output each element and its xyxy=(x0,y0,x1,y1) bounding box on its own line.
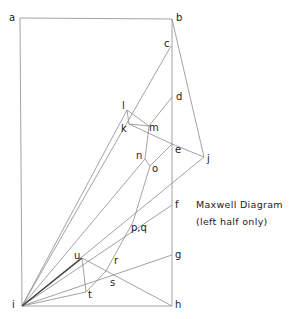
line-a-i xyxy=(20,18,22,306)
point-label-u: u xyxy=(74,250,80,261)
caption-title: Maxwell Diagram xyxy=(196,199,283,210)
point-label-pq: p,q xyxy=(131,222,147,233)
point-label-a: a xyxy=(9,12,15,23)
diagram-heavy-strut xyxy=(22,258,82,306)
point-label-e: e xyxy=(175,144,181,155)
point-label-s: s xyxy=(110,277,115,288)
line-c-i xyxy=(22,46,171,306)
line-f-i xyxy=(22,205,172,306)
point-label-r: r xyxy=(114,255,119,266)
point-label-c: c xyxy=(164,38,170,49)
line-n-o xyxy=(145,159,150,166)
point-label-d: d xyxy=(176,91,182,102)
maxwell-diagram: abcdefghijklmnop,qrstu xyxy=(0,0,295,319)
diagram-lines xyxy=(20,18,204,306)
line-n-i xyxy=(22,159,145,306)
line-i-u-heavy xyxy=(22,258,82,306)
point-label-m: m xyxy=(149,122,159,133)
point-label-n: n xyxy=(136,150,142,161)
line-l-m xyxy=(127,110,149,126)
line-b-j xyxy=(172,19,204,157)
point-label-f: f xyxy=(175,199,179,210)
point-label-g: g xyxy=(175,249,181,260)
point-label-o: o xyxy=(152,163,158,174)
point-label-b: b xyxy=(176,12,182,23)
line-o-pq xyxy=(133,166,150,222)
point-label-l: l xyxy=(122,100,125,111)
caption-subtitle: (left half only) xyxy=(196,216,268,227)
point-label-h: h xyxy=(175,299,181,310)
point-label-j: j xyxy=(206,153,210,164)
line-a-b xyxy=(20,18,172,19)
point-label-k: k xyxy=(121,123,127,134)
point-label-t: t xyxy=(88,289,92,300)
point-label-i: i xyxy=(12,299,15,310)
